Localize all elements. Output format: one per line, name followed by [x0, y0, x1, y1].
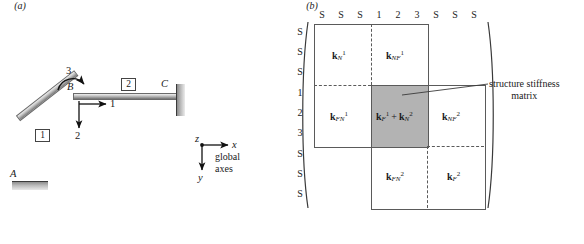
- axis-label-y: y: [198, 172, 203, 183]
- global-axes-caption-line2: axes: [215, 163, 233, 174]
- axis-label-x: x: [232, 139, 237, 150]
- global-axes-svg: [0, 0, 292, 244]
- annotation-leader-svg: [292, 0, 584, 244]
- panel-b-matrix-diagram: S S S 1 2 3 S S S S S S 1 2 3 S S S kN1: [292, 0, 584, 244]
- axis-label-z: z: [195, 133, 199, 144]
- annotation-structure-stiffness-matrix: structure stiffness matrix: [489, 78, 560, 102]
- annotation-line-2: matrix: [489, 90, 560, 102]
- annotation-line-1: structure stiffness: [489, 78, 560, 90]
- global-axes-caption-line1: global: [215, 151, 240, 162]
- panel-a-frame-diagram: A B C 1 2 1 2 3 z: [0, 0, 292, 244]
- figure-root: A B C 1 2 1 2 3 z: [0, 0, 584, 244]
- annotation-leader-line: [402, 84, 488, 95]
- axis-z-origin-dot: [200, 143, 204, 147]
